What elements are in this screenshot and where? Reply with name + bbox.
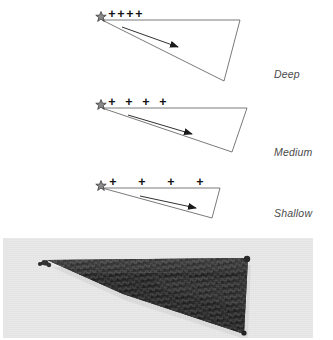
svg-text:+: + [109, 175, 116, 189]
panel-medium: + + + + [96, 95, 247, 152]
shawl-photo-render [3, 238, 313, 338]
arrow-icon-medium [128, 115, 192, 134]
svg-text:+: + [196, 175, 203, 189]
svg-text:+: + [167, 175, 174, 189]
svg-text:+: + [126, 7, 133, 21]
svg-text:+: + [108, 95, 115, 109]
increase-symbols-shallow: + + + + [109, 175, 203, 189]
svg-text:+: + [138, 175, 145, 189]
triangle-outline-deep [102, 20, 240, 81]
svg-text:+: + [135, 7, 142, 21]
panel-shallow: + + + + [96, 175, 220, 218]
svg-text:+: + [117, 7, 124, 21]
panel-label-deep: Deep [274, 68, 300, 80]
svg-text:+: + [108, 7, 115, 21]
svg-text:+: + [142, 95, 149, 109]
svg-text:+: + [125, 95, 132, 109]
knitted-triangular-shawl-photo [3, 238, 313, 338]
triangle-outline-medium [102, 108, 247, 152]
increase-symbols-medium: + + + + [108, 95, 166, 109]
svg-text:+: + [159, 95, 166, 109]
increase-symbols-deep: + + + + [108, 7, 142, 21]
triangle-outline-shallow [102, 188, 220, 218]
panel-label-shallow: Shallow [274, 207, 312, 219]
panel-label-medium: Medium [274, 146, 313, 158]
figure-container: + + + + + + + + [0, 0, 333, 340]
schematic-diagrams: + + + + + + + + [0, 0, 333, 238]
panel-deep: + + + + [96, 7, 240, 81]
